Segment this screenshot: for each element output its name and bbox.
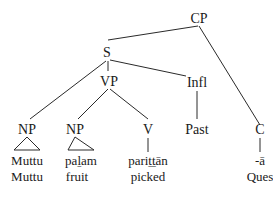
leaf-object-form: paḻam: [65, 153, 97, 168]
node-c: C: [255, 123, 264, 137]
node-np-object: NP: [66, 123, 84, 137]
node-np-subject: NP: [18, 123, 36, 137]
node-s: S: [103, 46, 111, 60]
node-cp: CP: [190, 12, 207, 26]
leaf-object-gloss: fruit: [66, 169, 88, 184]
node-past: Past: [185, 123, 208, 137]
leaf-complementizer-form: -ā: [255, 153, 265, 168]
leaf-subject-form: Muttu: [11, 153, 43, 168]
leaf-complementizer-gloss: Ques: [247, 169, 273, 184]
leaf-verb-gloss: picked: [131, 169, 166, 184]
leaf-subject-gloss: Muttu: [11, 169, 43, 184]
node-infl: Infl: [187, 76, 207, 90]
node-v: V: [143, 123, 153, 137]
node-vp: VP: [100, 75, 118, 89]
leaf-verb-form: pariṯṯān: [128, 153, 168, 168]
